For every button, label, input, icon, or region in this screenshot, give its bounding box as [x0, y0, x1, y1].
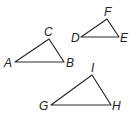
triangle-abc: A B C [3, 25, 74, 70]
vertex-label-a: A [3, 56, 12, 70]
vertex-label-f: F [104, 5, 112, 19]
vertex-label-e: E [120, 31, 129, 45]
triangle-def: D E F [71, 5, 129, 45]
triangle-abc-shape [15, 39, 64, 62]
triangles-diagram: A B C D E F G H I [0, 0, 131, 118]
vertex-label-c: C [44, 25, 53, 39]
vertex-label-i: I [91, 61, 95, 75]
triangle-ghi: G H I [39, 61, 121, 113]
vertex-label-b: B [66, 56, 74, 70]
vertex-label-g: G [39, 99, 48, 113]
vertex-label-h: H [112, 99, 121, 113]
triangle-def-shape [81, 19, 119, 37]
triangle-ghi-shape [51, 75, 111, 105]
vertex-label-d: D [71, 31, 80, 45]
